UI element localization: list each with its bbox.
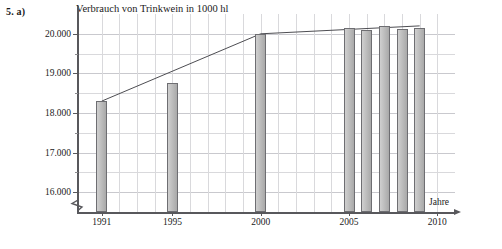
bar bbox=[167, 83, 178, 212]
y-axis-tick bbox=[73, 153, 78, 154]
y-axis-tick-label: 20.000 bbox=[45, 29, 71, 39]
y-axis-tick-minor bbox=[75, 172, 79, 173]
x-axis-line bbox=[77, 212, 455, 214]
bar bbox=[414, 28, 425, 212]
x-axis-title: Jahre bbox=[429, 197, 449, 207]
bar bbox=[361, 30, 372, 212]
x-axis-tick-label: 2005 bbox=[340, 217, 359, 227]
exercise-label: 5. a) bbox=[6, 6, 25, 17]
y-axis-tick-label: 18.000 bbox=[45, 108, 71, 118]
y-axis-tick bbox=[73, 192, 78, 193]
bar bbox=[255, 34, 266, 212]
y-axis-tick-label: 17.000 bbox=[45, 148, 71, 158]
bar bbox=[344, 28, 355, 212]
x-axis-tick-label: 1995 bbox=[163, 217, 182, 227]
x-axis-tick-label: 1991 bbox=[92, 217, 111, 227]
y-axis-tick bbox=[73, 34, 78, 35]
y-axis-tick-label: 16.000 bbox=[45, 187, 71, 197]
axis-break-icon bbox=[69, 194, 85, 212]
chart-title: Verbrauch von Trinkwein in 1000 hl bbox=[76, 3, 229, 14]
bar bbox=[379, 26, 390, 212]
y-axis-line bbox=[77, 6, 79, 212]
x-axis-tick bbox=[437, 212, 438, 216]
y-axis-tick-minor bbox=[75, 133, 79, 134]
bar bbox=[397, 29, 408, 212]
x-axis-tick bbox=[261, 212, 262, 216]
y-axis-tick-minor bbox=[75, 54, 79, 55]
y-axis-tick bbox=[73, 73, 78, 74]
x-axis-tick-label: 2010 bbox=[428, 217, 447, 227]
y-axis-tick bbox=[73, 113, 78, 114]
x-axis-tick bbox=[102, 212, 103, 216]
y-axis-tick-minor bbox=[75, 93, 79, 94]
x-axis-arrow-icon bbox=[454, 209, 461, 215]
x-axis-tick-label: 2000 bbox=[251, 217, 270, 227]
chart-plot-area: 16.00017.00018.00019.00020.000 199119952… bbox=[77, 14, 455, 212]
bar bbox=[96, 101, 107, 212]
x-axis-tick bbox=[349, 212, 350, 216]
y-axis-tick-label: 19.000 bbox=[45, 68, 71, 78]
x-axis-tick bbox=[172, 212, 173, 216]
